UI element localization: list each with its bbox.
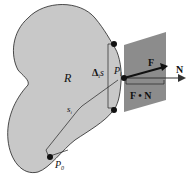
flux-diagram: R Δis Pi si P0 F N F • N xyxy=(0,0,191,178)
point-bottom xyxy=(111,107,117,113)
label-R: R xyxy=(63,71,72,85)
arrow-N xyxy=(178,74,186,82)
label-N: N xyxy=(176,64,184,75)
label-F: F xyxy=(148,57,154,68)
label-FN: F • N xyxy=(130,90,152,101)
point-Pi xyxy=(121,75,127,81)
region-R xyxy=(8,5,122,173)
label-P0: P0 xyxy=(54,159,64,171)
point-top xyxy=(111,41,117,47)
label-delta: Δis xyxy=(92,67,104,79)
point-P0 xyxy=(47,154,53,160)
